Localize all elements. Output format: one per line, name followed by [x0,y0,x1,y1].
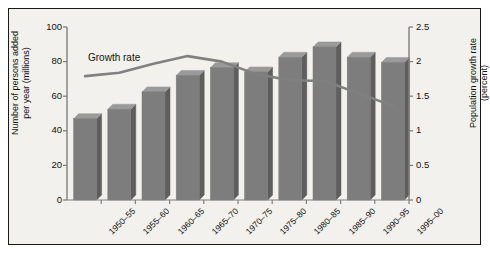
bar-1975-80 [245,67,273,200]
left-tick-label-2: 40 [20,124,62,135]
left-tick-label-4: 80 [20,55,62,66]
bar-1955-60 [108,104,136,200]
left-tick-label-0: 0 [20,194,62,205]
bar-1960-65 [142,87,170,200]
bar-1995-00 [381,57,409,200]
bar-1950-55 [74,114,102,200]
bar-1985-90 [313,42,341,200]
left-tick-label-3: 60 [20,90,62,101]
right-tick-label-1: 0.5 [416,159,446,170]
bar-1970-75 [210,63,238,200]
right-tick-label-0: 0 [416,194,446,205]
left-tick-label-5: 100 [20,21,62,32]
right-tick-label-5: 2.5 [416,21,446,32]
left-tick-label-1: 20 [20,159,62,170]
right-tick-label-4: 2 [416,55,446,66]
bar-1990-95 [347,52,375,200]
growth-rate-line [85,56,393,106]
right-tick-label-2: 1 [416,124,446,135]
right-tick-label-3: 1.5 [416,90,446,101]
bar-1980-85 [279,52,307,200]
bar-1965-70 [176,70,204,200]
